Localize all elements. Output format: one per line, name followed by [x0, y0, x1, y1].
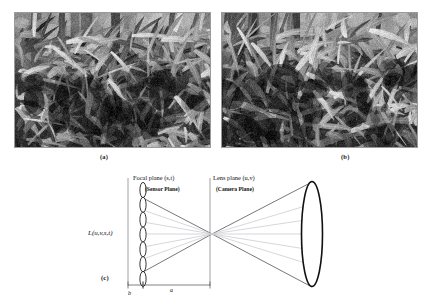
- dimension-label-b: b: [128, 290, 131, 296]
- camera-lens-ellipse: [302, 182, 323, 287]
- lens-plane-subtitle: (Camera Plane): [216, 186, 254, 192]
- light-field-diagram: Focal plane (s,t) (Sensor Plane) Lens pl…: [0, 166, 430, 305]
- focal-plane-subtitle: (Sensor Plane): [145, 186, 180, 192]
- microlens-element: [140, 197, 146, 212]
- dimension-label-a: a: [170, 287, 173, 293]
- photograph-image-a: [15, 13, 210, 147]
- photograph-panel-b: [221, 12, 418, 148]
- photograph-panel-a: [14, 12, 211, 148]
- subfigure-caption-b: (b): [341, 153, 350, 160]
- microlens-element: [140, 257, 146, 272]
- figure-root: (a) (b): [0, 0, 430, 305]
- radiance-function-label: L(u,v,s,t): [88, 229, 113, 237]
- photograph-image-b: [222, 13, 417, 147]
- subfigure-caption-c: (c): [101, 274, 109, 281]
- ray-bundle-dark: [143, 182, 312, 287]
- subfigure-caption-a: (a): [100, 153, 108, 160]
- focal-plane-title: Focal plane (s,t): [133, 174, 174, 181]
- dimension-a: [143, 282, 210, 289]
- lens-plane-title: Lens plane (u,v): [213, 174, 255, 181]
- microlens-element: [140, 242, 146, 257]
- microlens-element: [140, 227, 146, 242]
- microlens-element: [140, 212, 146, 227]
- diagram-svg: [0, 166, 430, 305]
- ray-bundle-light: [143, 204, 312, 265]
